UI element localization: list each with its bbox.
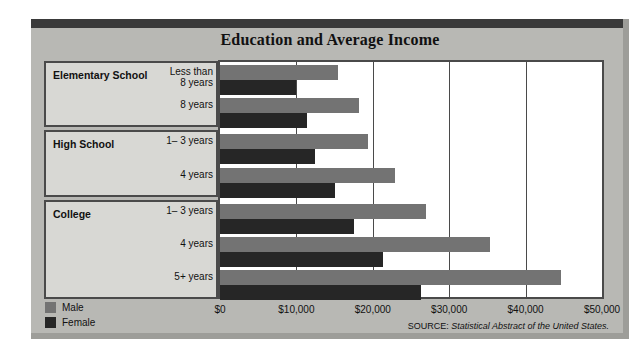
bar-female xyxy=(220,80,296,95)
source-prefix: SOURCE: xyxy=(408,321,449,331)
legend-swatch-female-icon xyxy=(45,317,56,328)
panel-top-band xyxy=(31,19,629,28)
x-axis-tick-label: $0 xyxy=(214,304,225,315)
x-axis-tick-label: $30,000 xyxy=(431,304,467,315)
source-text: Statistical Abstract of the United State… xyxy=(451,321,609,331)
legend-label-female: Female xyxy=(62,317,95,328)
bar-female xyxy=(220,252,383,267)
bar-male xyxy=(220,168,395,183)
legend-swatch-male-icon xyxy=(45,302,56,313)
panel-bottom-shadow xyxy=(31,333,629,339)
legend-label-male: Male xyxy=(62,302,84,313)
chart-figure: Education and Average Income Elementary … xyxy=(0,0,644,359)
gridline xyxy=(526,62,527,297)
bar-male xyxy=(220,237,490,252)
x-axis-tick-label: $40,000 xyxy=(508,304,544,315)
bar-male xyxy=(220,270,561,285)
bar-female xyxy=(220,113,307,128)
x-axis-tick-label: $50,000 xyxy=(584,304,620,315)
x-axis-ticks: $0$10,000$20,000$30,000$40,000$50,000 xyxy=(31,304,629,320)
chart-title: Education and Average Income xyxy=(31,31,629,49)
bar-female xyxy=(220,183,335,198)
bar-male xyxy=(220,134,368,149)
source-note: SOURCE: Statistical Abstract of the Unit… xyxy=(408,321,609,331)
gridline xyxy=(449,62,450,297)
row-label: 1– 3 years xyxy=(63,135,213,146)
row-label: Less than 8 years xyxy=(63,66,213,88)
bar-female xyxy=(220,285,421,300)
row-label: 1– 3 years xyxy=(63,205,213,216)
chart-panel: Education and Average Income Elementary … xyxy=(31,19,629,339)
legend-item-male: Male xyxy=(45,302,95,313)
bar-female xyxy=(220,219,354,234)
chart-legend: Male Female xyxy=(45,302,95,332)
legend-item-female: Female xyxy=(45,317,95,328)
row-label: 5+ years xyxy=(63,271,213,282)
bar-female xyxy=(220,149,315,164)
row-label: 4 years xyxy=(63,238,213,249)
plot-canvas xyxy=(218,60,604,299)
row-label: 4 years xyxy=(63,169,213,180)
x-axis-tick-label: $10,000 xyxy=(278,304,314,315)
category-column: Elementary SchoolLess than 8 years8 year… xyxy=(44,60,218,299)
x-axis-tick-label: $20,000 xyxy=(355,304,391,315)
row-label: 8 years xyxy=(63,99,213,110)
chart-plot-area: Elementary SchoolLess than 8 years8 year… xyxy=(44,60,604,299)
bar-male xyxy=(220,204,426,219)
bar-male xyxy=(220,98,359,113)
bar-male xyxy=(220,65,338,80)
panel-right-shadow xyxy=(623,19,629,339)
